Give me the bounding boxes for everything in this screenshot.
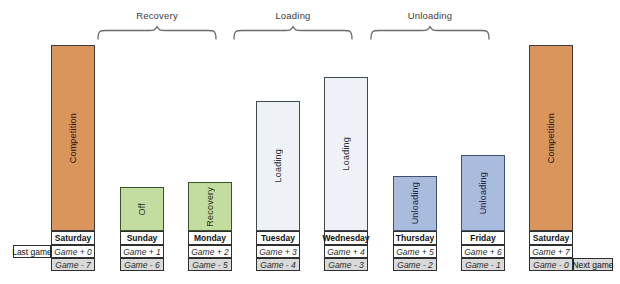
- last-game-label: Last game: [12, 247, 52, 257]
- table-cell-day: Monday: [188, 231, 232, 245]
- table-cell-day: Thursday: [393, 231, 437, 245]
- table-cell-game-plus: Game + 3: [256, 245, 300, 258]
- table-cell-game-minus: Game - 5: [188, 258, 232, 271]
- table-cell-game-minus: Game - 4: [256, 258, 300, 271]
- bar-label: Recovery: [205, 187, 215, 227]
- game-minus-label: Game - 2: [397, 260, 432, 270]
- table-cell-day: Friday: [461, 231, 505, 245]
- day-label: Saturday: [55, 233, 91, 243]
- phase-brace-unloading: [370, 26, 490, 39]
- phase-label-recovery: Recovery: [97, 10, 217, 21]
- game-minus-label: Game - 7: [55, 260, 90, 270]
- table-cell-game-plus: Game + 6: [461, 245, 505, 258]
- day-label: Wednesday: [322, 233, 369, 243]
- bar-label: Competition: [68, 113, 78, 163]
- day-label: Monday: [194, 233, 226, 243]
- game-plus-label: Game + 1: [123, 247, 161, 257]
- bar-label: Unloading: [478, 172, 488, 214]
- bar-monday-recovery[interactable]: Recovery: [188, 182, 232, 231]
- next-game-tag: Next game: [573, 258, 613, 271]
- game-minus-label: Game - 4: [260, 260, 295, 270]
- day-label: Saturday: [533, 233, 569, 243]
- table-cell-game-minus: Game - 7: [51, 258, 95, 271]
- game-minus-label: Game - 0: [533, 260, 568, 270]
- table-cell-game-minus: Game - 2: [393, 258, 437, 271]
- game-minus-label: Game - 6: [124, 260, 159, 270]
- figure-canvas: Recovery Loading Unloading Competition O…: [0, 0, 620, 284]
- day-label: Tuesday: [261, 233, 295, 243]
- table-cell-game-plus: Game + 0: [51, 245, 95, 258]
- bar-saturday-competition[interactable]: Competition: [51, 45, 95, 231]
- game-plus-label: Game + 2: [191, 247, 229, 257]
- game-plus-label: Game + 3: [259, 247, 297, 257]
- table-cell-game-plus: Game + 2: [188, 245, 232, 258]
- table-cell-game-minus: Game - 3: [324, 258, 368, 271]
- bar-saturday-next-competition[interactable]: Competition: [529, 45, 573, 231]
- table-cell-day: Saturday: [51, 231, 95, 245]
- table-cell-game-minus: Game - 1: [461, 258, 505, 271]
- table-cell-game-plus: Game + 1: [120, 245, 164, 258]
- table-cell-day: Tuesday: [256, 231, 300, 245]
- phase-label-loading: Loading: [233, 10, 353, 21]
- table-cell-day: Sunday: [120, 231, 164, 245]
- next-game-label: Next game: [572, 260, 613, 270]
- game-plus-label: Game + 7: [532, 247, 570, 257]
- phase-brace-loading: [233, 26, 353, 39]
- bar-sunday-off[interactable]: Off: [120, 187, 164, 231]
- day-label: Friday: [470, 233, 496, 243]
- bar-wednesday-loading[interactable]: Loading: [324, 77, 368, 231]
- phase-label-unloading: Unloading: [370, 10, 490, 21]
- last-game-tag: Last game: [13, 245, 51, 258]
- table-cell-game-minus: Game - 6: [120, 258, 164, 271]
- game-plus-label: Game + 4: [327, 247, 365, 257]
- phase-brace-recovery: [97, 26, 217, 39]
- bar-thursday-unloading[interactable]: Unloading: [393, 176, 437, 231]
- game-minus-label: Game - 1: [465, 260, 500, 270]
- bar-label: Unloading: [410, 182, 420, 224]
- table-cell-game-plus: Game + 4: [324, 245, 368, 258]
- bar-tuesday-loading[interactable]: Loading: [256, 101, 300, 231]
- game-plus-label: Game + 5: [396, 247, 434, 257]
- bar-label: Off: [137, 203, 147, 215]
- bar-label: Loading: [341, 137, 351, 170]
- day-label: Thursday: [396, 233, 434, 243]
- game-plus-label: Game + 0: [54, 247, 92, 257]
- table-cell-game-minus: Game - 0: [529, 258, 573, 271]
- table-cell-day: Wednesday: [324, 231, 368, 245]
- table-cell-game-plus: Game + 5: [393, 245, 437, 258]
- day-label: Sunday: [127, 233, 158, 243]
- bar-label: Loading: [273, 149, 283, 182]
- table-cell-day: Saturday: [529, 231, 573, 245]
- bar-friday-unloading[interactable]: Unloading: [461, 155, 505, 231]
- game-minus-label: Game - 5: [192, 260, 227, 270]
- game-plus-label: Game + 6: [464, 247, 502, 257]
- table-cell-game-plus: Game + 7: [529, 245, 573, 258]
- bar-label: Competition: [546, 113, 556, 163]
- game-minus-label: Game - 3: [328, 260, 363, 270]
